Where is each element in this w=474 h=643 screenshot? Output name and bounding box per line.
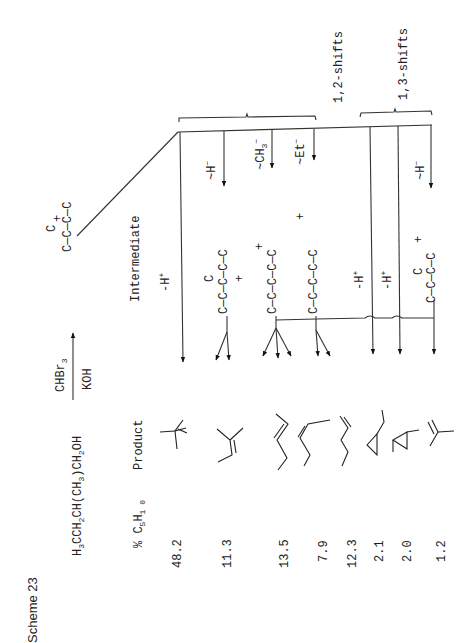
product-3-structure bbox=[274, 414, 288, 470]
methyl-shift-label: ~CH3− bbox=[253, 139, 269, 170]
intermediate-3: C—C—C—C—C bbox=[308, 249, 320, 314]
deprotonation-label-1: -H+ bbox=[158, 273, 172, 292]
reagent-above: CHBr3 bbox=[55, 358, 69, 392]
product-7-structure bbox=[393, 430, 419, 452]
product-1-structure bbox=[160, 420, 187, 449]
deprotonation-label-3: -H+ bbox=[380, 271, 394, 290]
product-6-structure bbox=[367, 410, 384, 455]
yield-1: 48.2 bbox=[172, 539, 184, 568]
product-2-structure bbox=[217, 428, 243, 462]
intermediate-2-charge: + bbox=[254, 243, 266, 250]
intermediate-4: C—C—C—C bbox=[426, 253, 438, 303]
header-intermediate: Intermediate bbox=[130, 216, 142, 302]
hydride-13-shift-label: ~H− bbox=[413, 161, 427, 180]
intermediate-3-charge: + bbox=[295, 213, 307, 220]
yield-8: 1.2 bbox=[436, 540, 448, 562]
intermediate-4-methyl: C bbox=[413, 268, 425, 275]
cation-methyl: C bbox=[46, 225, 58, 232]
hydride-shift-label: ~H− bbox=[204, 161, 218, 180]
yield-7: 2.0 bbox=[402, 540, 414, 562]
product-8-structure bbox=[428, 420, 454, 446]
scheme-title: Scheme 23 bbox=[26, 577, 39, 643]
reaction-scheme: Scheme 23 H3CCH2CH(CH3)CH2OH CHBr3 KOH C… bbox=[0, 0, 474, 643]
product-4-structure bbox=[298, 420, 330, 466]
deprotonation-label-2: -H+ bbox=[352, 271, 366, 290]
yield-6: 2.1 bbox=[374, 540, 386, 562]
yield-5: 12.3 bbox=[347, 539, 359, 568]
intermediate-2: C—C—C—C—C bbox=[267, 249, 279, 314]
yield-2: 11.3 bbox=[222, 539, 234, 568]
header-yield: % C5H1 0 bbox=[133, 500, 147, 548]
intermediate-4-charge: + bbox=[413, 236, 425, 243]
intermediate-1-methyl: C bbox=[204, 275, 216, 282]
yield-3: 13.5 bbox=[279, 539, 291, 568]
starting-cation: C—C—C—C bbox=[62, 202, 74, 252]
yield-4: 7.9 bbox=[318, 540, 330, 562]
intermediate-1-charge: + bbox=[234, 275, 246, 282]
label-1-3-shifts: 1,3-shifts bbox=[398, 28, 410, 100]
ethyl-shift-label: ~Et− bbox=[293, 139, 307, 165]
reactant-formula: H3CCH2CH(CH3)CH2OH bbox=[72, 436, 86, 556]
cation-charge: + bbox=[52, 215, 64, 222]
intermediate-1: C—C—C—C—C bbox=[218, 249, 230, 314]
label-1-2-shifts: 1,2-shifts bbox=[333, 31, 345, 103]
reagent-below: KOH bbox=[82, 368, 94, 390]
header-product: Product bbox=[133, 420, 145, 470]
product-5-structure bbox=[340, 416, 351, 466]
